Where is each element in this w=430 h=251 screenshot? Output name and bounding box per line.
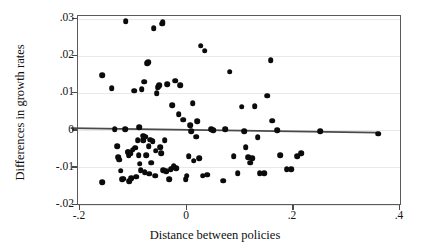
y-tick-label: .03 <box>60 12 74 24</box>
y-tick-label: -.01 <box>56 161 74 173</box>
x-axis-title: Distance between policies <box>0 228 430 243</box>
gridline <box>78 56 400 57</box>
x-tick-label: .4 <box>395 210 404 222</box>
plot-area <box>77 15 401 205</box>
gridline <box>78 19 400 20</box>
gridline <box>78 205 400 206</box>
scatter-plot-figure: .03 .02 .01 0 -.01 -.02 -.2 0 .2 .4 Dist… <box>0 0 430 251</box>
y-axis-title: Differences in growth rates <box>13 20 28 206</box>
y-tick-label: .01 <box>60 86 74 98</box>
x-tick-label: .2 <box>288 210 297 222</box>
gridline <box>78 93 400 94</box>
y-tick-label: .02 <box>60 49 74 61</box>
x-tick-label: 0 <box>183 210 189 222</box>
gridline <box>78 130 400 131</box>
gridline <box>78 167 400 168</box>
x-tick-label: -.2 <box>73 210 85 222</box>
y-tick-label: -.02 <box>56 198 74 210</box>
y-tick-label: 0 <box>68 124 74 136</box>
